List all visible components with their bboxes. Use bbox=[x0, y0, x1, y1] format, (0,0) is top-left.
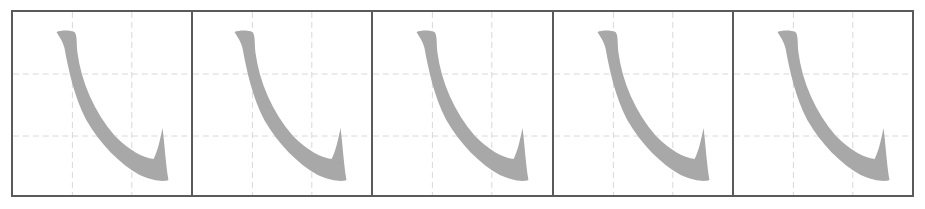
stroke-hook-glyph-icon bbox=[554, 12, 732, 195]
stroke-hook-glyph-icon bbox=[373, 12, 551, 195]
stroke-hook-glyph-icon bbox=[13, 12, 191, 195]
practice-cell-2 bbox=[193, 12, 373, 195]
stroke-hook-glyph-icon bbox=[193, 12, 371, 195]
practice-cell-4 bbox=[554, 12, 734, 195]
practice-grid-sheet bbox=[11, 10, 914, 197]
practice-cell-3 bbox=[373, 12, 553, 195]
practice-cell-5 bbox=[734, 12, 912, 195]
stroke-hook-glyph-icon bbox=[734, 12, 912, 195]
practice-cell-1 bbox=[13, 12, 193, 195]
